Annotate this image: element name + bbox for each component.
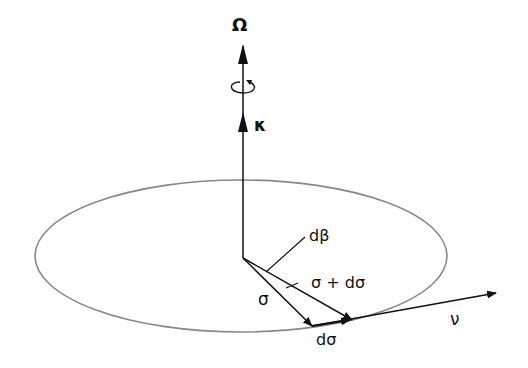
- diagram-canvas: [0, 0, 528, 368]
- omega-label: Ω: [232, 14, 247, 35]
- ellipse: [35, 180, 447, 332]
- kappa-arrowhead: [238, 112, 248, 132]
- dsigma-label: dσ: [316, 330, 336, 349]
- dbeta-leader: [266, 237, 305, 272]
- kappa-label: κ: [254, 115, 266, 135]
- dbeta-label: dβ: [309, 226, 329, 245]
- sigma-plus-dsigma-label: σ + dσ: [311, 273, 365, 292]
- sigma-label: σ: [258, 289, 269, 309]
- omega-arrowhead: [238, 44, 248, 64]
- nu-vector: [312, 293, 496, 326]
- nu-label: ν: [450, 309, 460, 329]
